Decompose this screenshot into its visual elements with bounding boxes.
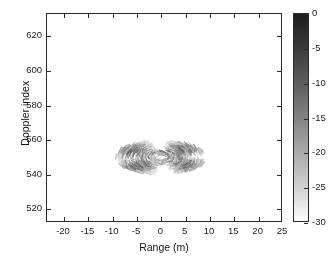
y-tick-mark bbox=[277, 36, 281, 37]
colorbar-tick-mark bbox=[304, 223, 308, 224]
x-tick-mark bbox=[64, 14, 65, 18]
x-tick-mark bbox=[113, 217, 114, 221]
colorbar-tick-mark bbox=[304, 84, 308, 85]
x-tick-label: 25 bbox=[277, 226, 288, 236]
x-tick-mark bbox=[259, 14, 260, 18]
y-tick-mark bbox=[47, 209, 51, 210]
y-tick-mark bbox=[277, 209, 281, 210]
colorbar-tick-mark bbox=[304, 49, 308, 50]
colorbar-tick-mark bbox=[304, 14, 308, 15]
plot-area bbox=[46, 13, 282, 222]
y-tick-label: 620 bbox=[26, 31, 42, 41]
x-tick-mark bbox=[186, 14, 187, 18]
x-tick-mark bbox=[161, 217, 162, 221]
x-tick-mark bbox=[234, 14, 235, 18]
colorbar-tick-label: -25 bbox=[312, 182, 326, 192]
y-tick-mark bbox=[277, 140, 281, 141]
y-tick-mark bbox=[47, 140, 51, 141]
x-tick-mark bbox=[210, 217, 211, 221]
colorbar-tick-label: -5 bbox=[312, 43, 320, 53]
colorbar-tick-label: -15 bbox=[312, 113, 326, 123]
x-tick-mark bbox=[186, 217, 187, 221]
x-tick-label: 10 bbox=[204, 226, 215, 236]
x-tick-mark bbox=[88, 14, 89, 18]
colorbar-tick-mark bbox=[304, 119, 308, 120]
x-tick-label: -15 bbox=[80, 226, 94, 236]
x-tick-mark bbox=[259, 217, 260, 221]
x-tick-label: -20 bbox=[56, 226, 70, 236]
x-tick-label: 0 bbox=[158, 226, 163, 236]
x-tick-mark bbox=[161, 14, 162, 18]
x-tick-label: -10 bbox=[105, 226, 119, 236]
x-tick-mark bbox=[88, 217, 89, 221]
x-tick-mark bbox=[137, 217, 138, 221]
colorbar-tick-label: 0 bbox=[312, 8, 317, 18]
x-tick-mark bbox=[210, 14, 211, 18]
x-tick-label: -5 bbox=[132, 226, 140, 236]
x-tick-label: 20 bbox=[252, 226, 263, 236]
x-axis-label: Range (m) bbox=[46, 242, 282, 253]
y-tick-mark bbox=[47, 36, 51, 37]
colorbar-tick-label: -10 bbox=[312, 78, 326, 88]
x-tick-label: 5 bbox=[182, 226, 187, 236]
y-tick-label: 520 bbox=[26, 203, 42, 213]
x-tick-mark bbox=[234, 217, 235, 221]
x-tick-mark bbox=[137, 14, 138, 18]
y-tick-mark bbox=[47, 71, 51, 72]
y-tick-mark bbox=[277, 106, 281, 107]
y-tick-mark bbox=[47, 175, 51, 176]
colorbar-tick-mark bbox=[304, 188, 308, 189]
y-tick-mark bbox=[277, 175, 281, 176]
range-doppler-heatmap bbox=[47, 14, 282, 222]
colorbar bbox=[293, 13, 309, 222]
x-tick-mark bbox=[64, 217, 65, 221]
colorbar-tick-label: -20 bbox=[312, 148, 326, 158]
colorbar-tick-mark bbox=[304, 153, 308, 154]
figure-canvas: -20-15-10-50510152025 520540560580600620… bbox=[0, 0, 335, 268]
y-axis-label: Doppler index bbox=[20, 43, 31, 183]
y-tick-mark bbox=[277, 71, 281, 72]
y-tick-mark bbox=[47, 106, 51, 107]
colorbar-tick-label: -30 bbox=[312, 217, 326, 227]
x-tick-label: 15 bbox=[228, 226, 239, 236]
x-tick-mark bbox=[113, 14, 114, 18]
